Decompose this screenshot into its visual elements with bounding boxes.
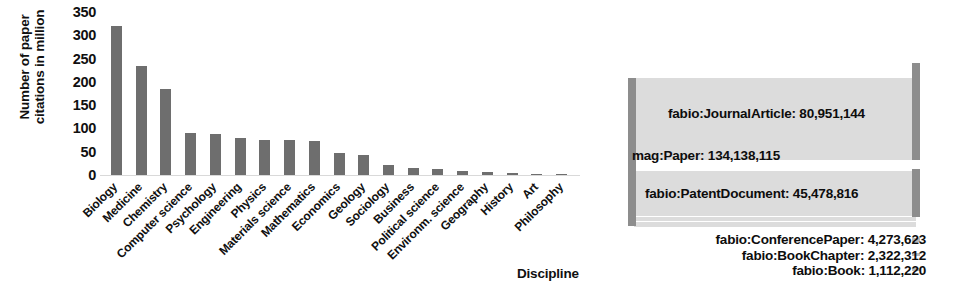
y-axis-title: Number of paper citations in million (17, 0, 47, 147)
bar (383, 165, 394, 175)
x-axis-tick-labels: BiologyMedicineChemistryComputer science… (0, 178, 620, 258)
sankey-flow-book (634, 225, 916, 227)
sankey-label-journalarticle: fabio:JournalArticle: 80,951,144 (668, 106, 865, 121)
bar (531, 174, 542, 175)
bar (111, 26, 122, 175)
sankey-label-patentdocument: fabio:PatentDocument: 45,478,816 (645, 186, 858, 201)
sankey-node-patentdocument (912, 169, 920, 217)
y-axis-title-line2: citations in million (32, 0, 47, 147)
bar (432, 169, 443, 175)
x-axis-baseline (100, 175, 580, 176)
bar (160, 89, 171, 175)
x-axis-title: Discipline (517, 266, 579, 281)
y-tick-250: 250 (73, 52, 96, 66)
sankey-label-bookchapter: fabio:BookChapter: 2,322,312 (620, 248, 926, 263)
y-tick-300: 300 (73, 28, 96, 42)
bar (259, 140, 270, 175)
y-tick-200: 200 (73, 75, 96, 89)
bar (284, 140, 295, 175)
y-tick-50: 50 (80, 145, 96, 159)
y-axis-ticks: 050100150200250300350 (50, 0, 96, 185)
bar (556, 174, 567, 175)
sankey-label-book: fabio:Book: 1,112,220 (620, 263, 926, 278)
bar (457, 171, 468, 175)
bar (210, 134, 221, 175)
figure-canvas: Number of paper citations in million 050… (0, 0, 954, 304)
sankey-node-journalarticle (912, 63, 920, 160)
bar-chart: Number of paper citations in million 050… (0, 0, 620, 304)
bar (334, 153, 345, 175)
bar (482, 172, 493, 175)
bars-plot-area (104, 12, 574, 175)
bar (408, 168, 419, 175)
bar (136, 66, 147, 175)
bar (507, 173, 518, 175)
bar (358, 155, 369, 175)
sankey-flow-conferencepaper (634, 217, 916, 221)
y-axis-title-line1: Number of paper (17, 0, 32, 147)
bar (309, 141, 320, 175)
bar (235, 138, 246, 175)
y-tick-350: 350 (73, 5, 96, 19)
y-tick-150: 150 (73, 98, 96, 112)
sankey-label-source-mag-paper: mag:Paper: 134,138,115 (632, 148, 780, 163)
sankey-label-conferencepaper: fabio:ConferencePaper: 4,273,623 (620, 232, 926, 247)
sankey-diagram: fabio:JournalArticle: 80,951,144 mag:Pap… (620, 0, 954, 304)
bar (185, 133, 196, 175)
y-tick-100: 100 (73, 121, 96, 135)
